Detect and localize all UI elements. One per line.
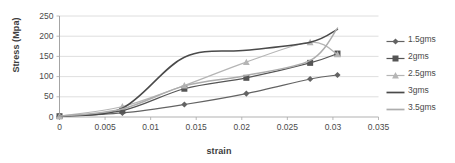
- x-tick-label: 0.015: [176, 122, 216, 132]
- legend-label: 2gms: [408, 51, 429, 61]
- gridlines: [60, 16, 379, 117]
- data-point-marker: [181, 101, 187, 107]
- y-tick-label: 0: [28, 112, 54, 122]
- legend-item-2.5gms[interactable]: 2.5gms: [386, 64, 454, 81]
- x-axis-title: strain: [60, 146, 378, 156]
- y-tick-label: 150: [28, 51, 54, 61]
- series-line: [60, 29, 338, 116]
- x-tick-label: 0.035: [359, 122, 399, 132]
- legend-label: 1.5gms: [408, 34, 436, 44]
- legend-item-3.5gms[interactable]: 3.5gms: [386, 98, 454, 115]
- y-tick-label: 250: [28, 11, 54, 21]
- series-line: [60, 28, 338, 116]
- data-point-marker: [393, 56, 399, 62]
- legend-swatch-icon: [386, 101, 405, 112]
- x-tick-label: 0.02: [222, 122, 262, 132]
- data-point-marker: [243, 90, 249, 96]
- y-tick-label: 100: [28, 71, 54, 81]
- legend-swatch-icon: [386, 67, 405, 78]
- axis-lines: [57, 16, 379, 120]
- stress-strain-chart: Stress (Mpa) 050100150200250 00.0050.010…: [0, 0, 455, 163]
- legend-label: 2.5gms: [408, 68, 436, 78]
- legend-swatch-icon: [386, 84, 405, 95]
- x-tick-label: 0.03: [313, 122, 353, 132]
- y-tick-label: 200: [28, 31, 54, 41]
- x-tick-label: 0.025: [267, 122, 307, 132]
- legend-item-2gms[interactable]: 2gms: [386, 47, 454, 64]
- series-3.5gms: [60, 28, 338, 116]
- series-layer: [56, 28, 341, 119]
- legend-swatch-icon: [386, 50, 405, 61]
- data-point-marker: [392, 38, 398, 44]
- chart-legend: 1.5gms2gms2.5gms3gms3.5gms: [386, 30, 454, 115]
- series-2.5gms: [56, 39, 341, 119]
- legend-swatch-icon: [386, 33, 405, 44]
- series-3gms: [60, 29, 338, 116]
- x-tick-label: 0: [40, 122, 80, 132]
- x-tick-label: 0.005: [85, 122, 125, 132]
- legend-item-3gms[interactable]: 3gms: [386, 81, 454, 98]
- x-tick-label: 0.01: [131, 122, 171, 132]
- legend-label: 3.5gms: [408, 102, 436, 112]
- legend-label: 3gms: [408, 85, 429, 95]
- y-tick-label: 50: [28, 91, 54, 101]
- series-2gms: [57, 51, 341, 120]
- legend-item-1.5gms[interactable]: 1.5gms: [386, 30, 454, 47]
- data-point-marker: [334, 72, 340, 78]
- series-line: [60, 54, 338, 117]
